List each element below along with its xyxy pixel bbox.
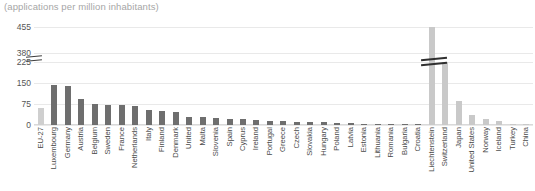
x-label-slot: Croatia <box>412 126 425 190</box>
bar[interactable] <box>348 123 354 125</box>
bar-slot <box>452 20 465 125</box>
bar[interactable] <box>253 120 259 125</box>
bar[interactable] <box>227 119 233 125</box>
x-label-slot: China <box>519 126 532 190</box>
x-label-slot: Estonia <box>358 126 371 190</box>
x-tick-label: China <box>522 127 530 147</box>
bar-slot <box>519 20 532 125</box>
bar[interactable] <box>132 106 138 125</box>
bar[interactable] <box>429 27 435 125</box>
bar-slot <box>196 20 209 125</box>
bar-slot <box>466 20 479 125</box>
x-tick-label: Liechtenstein <box>428 127 436 172</box>
x-tick-label: Hungary <box>320 127 328 156</box>
x-tick-label: Italy <box>145 127 153 141</box>
bar[interactable] <box>186 117 192 125</box>
x-label-slot: Cyprus <box>236 126 249 190</box>
bar[interactable] <box>267 121 273 125</box>
x-label-slot: Romania <box>385 126 398 190</box>
x-tick-label: Austria <box>77 127 85 151</box>
x-label-slot: Netherlands <box>128 126 141 190</box>
bar-slot <box>385 20 398 125</box>
bar[interactable] <box>159 111 165 125</box>
x-tick-label: Iceland <box>495 127 503 152</box>
x-tick-label: France <box>118 127 126 151</box>
bar-slot <box>492 20 505 125</box>
bar-slot <box>317 20 330 125</box>
x-label-slot: Japan <box>452 126 465 190</box>
bar-slot <box>155 20 168 125</box>
bar[interactable] <box>469 115 475 125</box>
x-tick-label: United <box>185 127 193 149</box>
bar[interactable] <box>456 101 462 125</box>
bar-slot <box>290 20 303 125</box>
x-label-slot: Italy <box>142 126 155 190</box>
bar[interactable] <box>51 85 57 125</box>
x-tick-label: United States <box>468 127 476 173</box>
x-label-slot: Malta <box>196 126 209 190</box>
bar[interactable] <box>496 121 502 125</box>
x-label-slot: Austria <box>74 126 87 190</box>
x-tick-label: Japan <box>455 127 463 148</box>
x-tick-label: Romania <box>388 127 396 157</box>
bar-slot <box>61 20 74 125</box>
x-tick-label: Estonia <box>361 127 369 152</box>
bar-slot <box>101 20 114 125</box>
bar[interactable] <box>78 99 84 125</box>
bar[interactable] <box>321 122 327 125</box>
x-tick-label: Sweden <box>104 127 112 154</box>
bar[interactable] <box>173 112 179 125</box>
bar[interactable] <box>280 121 286 125</box>
bar[interactable] <box>388 124 394 126</box>
bar[interactable] <box>510 124 516 126</box>
bar-slot <box>358 20 371 125</box>
x-label-slot: Czech <box>290 126 303 190</box>
bar-slot <box>128 20 141 125</box>
x-label-slot: Germany <box>61 126 74 190</box>
bar[interactable] <box>92 104 98 125</box>
x-tick-label: Portugal <box>266 127 274 155</box>
bar-slot <box>250 20 263 125</box>
bar[interactable] <box>213 118 219 125</box>
x-tick-label: Malta <box>199 127 207 146</box>
bar[interactable] <box>200 117 206 125</box>
x-label-slot: Ireland <box>250 126 263 190</box>
x-label-slot: France <box>115 126 128 190</box>
bar[interactable] <box>38 108 44 125</box>
x-tick-label: Ireland <box>253 127 261 150</box>
bar[interactable] <box>361 124 367 126</box>
plot-area <box>34 20 533 125</box>
bar[interactable] <box>523 124 529 126</box>
x-tick-label: Spain <box>226 127 234 146</box>
bar[interactable] <box>65 86 71 125</box>
bar[interactable] <box>294 122 300 125</box>
x-tick-label: Poland <box>334 127 342 151</box>
bar[interactable] <box>307 122 313 125</box>
bar[interactable] <box>105 105 111 125</box>
bar[interactable] <box>402 124 408 126</box>
x-label-slot: Liechtenstein <box>425 126 438 190</box>
x-label-slot: Poland <box>331 126 344 190</box>
x-label-slot: Switzerland <box>439 126 452 190</box>
x-axis-category-labels: EU-27LuxembourgGermanyAustriaBelgiumSwed… <box>34 126 533 190</box>
bar[interactable] <box>442 62 448 125</box>
bar-slot <box>439 20 452 125</box>
bar[interactable] <box>483 119 489 125</box>
bar[interactable] <box>146 110 152 125</box>
x-tick-label: Slovakia <box>307 127 315 156</box>
bar-slot <box>169 20 182 125</box>
bar[interactable] <box>415 124 421 126</box>
bar-slot <box>115 20 128 125</box>
x-label-slot: Sweden <box>101 126 114 190</box>
x-label-slot: Latvia <box>344 126 357 190</box>
bar[interactable] <box>375 124 381 126</box>
bar[interactable] <box>119 105 125 125</box>
bar-slot <box>277 20 290 125</box>
bar-slot <box>142 20 155 125</box>
bar[interactable] <box>240 119 246 125</box>
bar[interactable] <box>334 123 340 125</box>
x-tick-label: Lithuania <box>374 127 382 158</box>
x-label-slot: Slovenia <box>209 126 222 190</box>
x-tick-label: Netherlands <box>131 127 139 168</box>
y-tick-label: 75 <box>1 100 31 109</box>
